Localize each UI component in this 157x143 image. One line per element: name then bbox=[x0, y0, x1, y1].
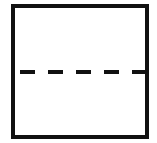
dash-segment bbox=[20, 70, 35, 74]
dash-segment bbox=[104, 70, 119, 74]
dash-segment bbox=[48, 70, 63, 74]
dash-segment bbox=[76, 70, 91, 74]
dash-segment bbox=[132, 70, 145, 74]
